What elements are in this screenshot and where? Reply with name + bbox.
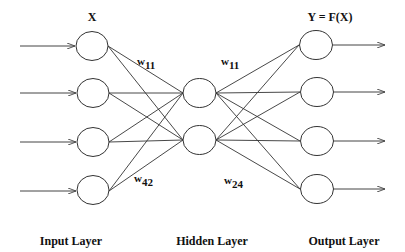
output-arrows [333,45,385,189]
hidden-node-1 [183,79,216,108]
output-layer-nodes [300,31,334,204]
input-node-1 [76,32,108,61]
weight-subscript: 11 [229,59,239,71]
input-arrows [20,46,76,191]
weight-label-w42: w42 [134,172,153,188]
input-node-3 [77,128,109,157]
input-layer-nodes [76,32,109,205]
weight-subscript: 11 [145,59,155,71]
neural-network-diagram: X Y = F(X) w11 w42 w11 w24 Input Layer H… [0,0,405,252]
weight-label-w11-left: w11 [137,55,155,71]
hidden-layer-nodes [183,79,216,155]
weight-label-w11-right: w11 [221,55,239,71]
input-node-4 [77,176,109,205]
weight-base: w [224,174,232,186]
output-layer-label: Output Layer [308,234,379,249]
weight-subscript: 24 [232,178,243,190]
output-node-1 [300,31,333,60]
output-node-3 [301,127,334,156]
hidden-layer-label: Hidden Layer [176,234,248,249]
input-layer-label: Input Layer [40,234,102,249]
weight-base: w [134,172,142,184]
weight-base: w [137,55,145,67]
network-canvas [0,0,405,252]
input-title: X [88,10,97,25]
output-node-4 [301,175,334,204]
weight-subscript: 42 [142,176,153,188]
weight-base: w [221,55,229,67]
hidden-node-2 [183,126,216,155]
output-title: Y = F(X) [307,10,352,25]
weight-label-w24: w24 [224,174,243,190]
input-node-2 [77,79,109,108]
output-node-2 [301,78,334,107]
